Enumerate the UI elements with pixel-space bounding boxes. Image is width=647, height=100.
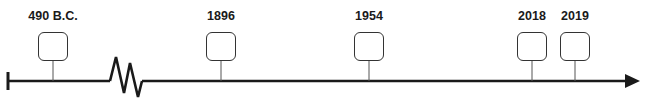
timeline-axis: [0, 0, 647, 100]
event-label-490bc: 490 B.C.: [28, 9, 77, 23]
arrow-head-icon: [625, 74, 640, 88]
event-box-490bc[interactable]: [38, 32, 68, 61]
event-label-1896: 1896: [207, 9, 235, 23]
event-box-1896[interactable]: [206, 32, 236, 61]
event-label-2019: 2019: [561, 9, 589, 23]
event-label-1954: 1954: [355, 9, 383, 23]
event-label-2018: 2018: [518, 9, 546, 23]
event-box-1954[interactable]: [354, 32, 384, 61]
timeline-break-zigzag: [110, 57, 142, 97]
event-box-2018[interactable]: [517, 32, 547, 61]
event-box-2019[interactable]: [560, 32, 590, 61]
